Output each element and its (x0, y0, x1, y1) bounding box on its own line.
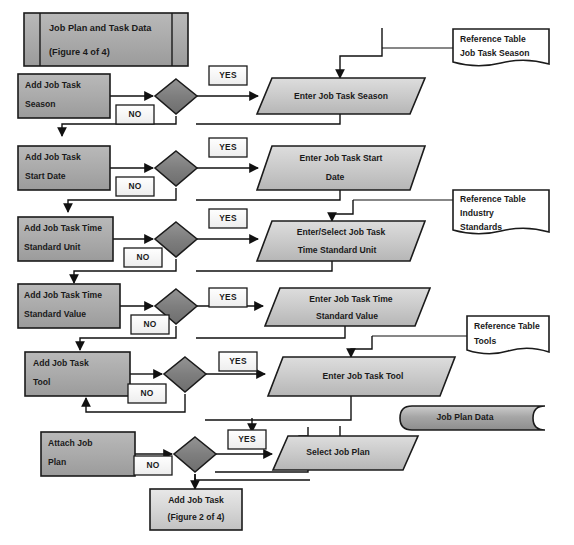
document-reference-table-industry-standards: Reference Table Industry Standards (453, 190, 549, 234)
no-label: NO (146, 460, 159, 470)
process-label-line2: Plan (48, 457, 66, 467)
io-enter-job-task-tool[interactable]: Enter Job Task Tool (268, 357, 455, 396)
document-reference-table-tools: Reference Table Tools (467, 316, 549, 354)
reference-label-line1: Reference Table (460, 194, 526, 204)
no-label: NO (128, 109, 141, 119)
yes-label: YES (219, 142, 237, 152)
label-yes-time-standard-value: YES (209, 288, 247, 307)
process-label-line1: Attach Job (48, 438, 92, 448)
label-yes-season: YES (209, 66, 247, 85)
label-yes-time-standard-unit: YES (209, 209, 247, 228)
yes-label: YES (219, 70, 237, 80)
flowchart-diagram: Job Plan and Task Data (Figure 4 of 4) A… (0, 0, 574, 545)
io-label-line1: Enter Job Task Tool (323, 371, 404, 381)
io-enter-select-job-task-time-standard-unit[interactable]: Enter/Select Job Task Time Standard Unit (257, 221, 425, 261)
datastore-job-plan-data: Job Plan Data (400, 406, 545, 430)
reference-label-line1: Reference Table (460, 34, 526, 44)
reference-label-line2: Industry (460, 208, 494, 218)
io-label-line1: Enter Job Task Time (309, 294, 392, 304)
process-add-job-task-time-standard-value[interactable]: Add Job Task Time Standard Value (18, 284, 120, 328)
diagram-title-sub: (Figure 4 of 4) (49, 47, 110, 57)
process-label-line1: Add Job Task Time (24, 223, 102, 233)
io-label-line2: Standard Value (316, 311, 378, 321)
process-label-line2: Season (25, 99, 56, 109)
process-add-job-task-time-standard-unit[interactable]: Add Job Task Time Standard Unit (18, 217, 113, 261)
terminator-add-job-task[interactable]: Add Job Task (Figure 2 of 4) (150, 489, 242, 530)
label-no-time-standard-unit: NO (124, 248, 162, 267)
label-yes-start-date: YES (209, 138, 247, 157)
process-add-job-task-tool[interactable]: Add Job Task Tool (25, 352, 130, 396)
io-label-line2: Time Standard Unit (298, 245, 377, 255)
process-attach-job-plan[interactable]: Attach Job Plan (41, 432, 135, 476)
decision-start-date[interactable] (155, 151, 197, 186)
process-label-line2: Tool (33, 377, 51, 387)
io-select-job-plan[interactable]: Select Job Plan (273, 436, 418, 470)
label-no-season: NO (116, 105, 154, 124)
flowchart-canvas: Job Plan and Task Data (Figure 4 of 4) A… (0, 0, 574, 545)
datastore-label: Job Plan Data (437, 412, 494, 422)
process-label-line2: Standard Value (24, 309, 86, 319)
io-label-line1: Enter/Select Job Task (297, 227, 386, 237)
io-label-line1: Enter Job Task Season (294, 91, 388, 101)
yes-label: YES (219, 213, 237, 223)
yes-label: YES (219, 292, 237, 302)
decision-tool[interactable] (164, 357, 206, 392)
label-no-time-standard-value: NO (131, 315, 169, 334)
io-label-line1: Enter Job Task Start (300, 153, 383, 163)
label-no-start-date: NO (116, 177, 154, 196)
reference-label-line2: Job Task Season (460, 48, 530, 58)
io-enter-job-task-time-standard-value[interactable]: Enter Job Task Time Standard Value (265, 288, 430, 326)
process-label-line1: Add Job Task (25, 152, 81, 162)
process-label-line1: Add Job Task (25, 80, 81, 90)
terminator-label-line1: Add Job Task (168, 495, 224, 505)
diagram-title: Job Plan and Task Data (49, 23, 152, 33)
io-enter-job-task-season[interactable]: Enter Job Task Season (257, 78, 425, 114)
process-label-line1: Add Job Task Time (24, 290, 102, 300)
process-label-line2: Standard Unit (24, 242, 80, 252)
terminator-label-line2: (Figure 2 of 4) (168, 512, 225, 522)
no-label: NO (140, 388, 153, 398)
label-no-tool: NO (128, 384, 166, 403)
process-add-job-task-start-date[interactable]: Add Job Task Start Date (18, 146, 110, 190)
title-predefined-process: Job Plan and Task Data (Figure 4 of 4) (24, 13, 188, 66)
process-label-line2: Start Date (25, 171, 66, 181)
process-label-line1: Add Job Task (33, 358, 89, 368)
process-add-job-task-season[interactable]: Add Job Task Season (18, 74, 110, 118)
io-label-line1: Select Job Plan (306, 447, 370, 457)
yes-label: YES (229, 356, 247, 366)
reference-label-line1: Reference Table (474, 321, 540, 331)
decision-season[interactable] (155, 79, 197, 114)
yes-label: YES (238, 434, 256, 444)
label-no-attach-job-plan: NO (134, 456, 172, 475)
reference-label-line2: Tools (474, 336, 496, 346)
no-label: NO (136, 252, 149, 262)
decision-attach-job-plan[interactable] (174, 437, 216, 472)
no-label: NO (143, 319, 156, 329)
label-yes-tool: YES (219, 352, 257, 371)
io-enter-job-task-start-date[interactable]: Enter Job Task Start Date (257, 146, 425, 190)
label-yes-attach-job-plan: YES (228, 430, 266, 449)
io-label-line2: Date (326, 172, 345, 182)
no-label: NO (128, 181, 141, 191)
document-reference-table-job-task-season: Reference Table Job Task Season (453, 29, 549, 66)
reference-label-line3: Standards (460, 222, 502, 232)
